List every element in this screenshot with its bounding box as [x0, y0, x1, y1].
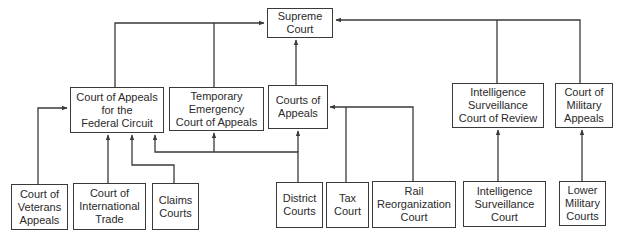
node-court-of-military-appeals: Court of Military Appeals — [555, 83, 613, 128]
node-rail-reorganization-court: Rail Reorganization Court — [372, 181, 456, 228]
node-court-of-appeals-federal-circuit: Court of Appeals for the Federal Circuit — [70, 87, 164, 133]
node-label: Claims Courts — [159, 194, 193, 220]
node-label: Court of Veterans Appeals — [18, 188, 61, 227]
node-label: Rail Reorganization Court — [377, 185, 451, 224]
node-claims-courts: Claims Courts — [152, 183, 199, 230]
node-label: Intelligence Surveillance Court of Revie… — [459, 86, 537, 125]
edge-rail-coa — [330, 107, 413, 181]
node-temporary-emergency-court-of-appeals: Temporary Emergency Court of Appeals — [169, 87, 264, 131]
node-court-of-veterans-appeals: Court of Veterans Appeals — [11, 184, 68, 230]
node-intelligence-surveillance-court: Intelligence Surveillance Court — [463, 181, 546, 227]
node-lower-military-courts: Lower Military Courts — [559, 181, 606, 226]
node-label: District Courts — [283, 192, 317, 218]
node-label: Court of International Trade — [79, 187, 140, 226]
node-intelligence-surveillance-court-of-review: Intelligence Surveillance Court of Revie… — [452, 83, 544, 128]
node-label: Court of Military Appeals — [564, 86, 604, 125]
edge-cma-supreme — [336, 20, 580, 83]
node-label: Tax Court — [334, 192, 361, 218]
node-label: Temporary Emergency Court of Appeals — [176, 90, 257, 129]
node-tax-court: Tax Court — [326, 182, 369, 228]
node-district-courts: District Courts — [276, 182, 323, 228]
node-label: Court of Appeals for the Federal Circuit — [76, 91, 157, 130]
node-label: Supreme Court — [278, 10, 323, 36]
edge-cva-cafc — [38, 108, 67, 184]
node-supreme-court: Supreme Court — [267, 8, 333, 38]
edge-cafc-supreme — [115, 23, 264, 87]
node-courts-of-appeals: Courts of Appeals — [268, 85, 328, 129]
edge-district-cafc — [155, 135, 298, 182]
node-label: Intelligence Surveillance Court — [475, 185, 535, 224]
edge-claims-cafc — [132, 135, 174, 183]
node-court-of-international-trade: Court of International Trade — [73, 183, 146, 230]
court-hierarchy-diagram: Supreme Court Court of Appeals for the F… — [0, 0, 617, 237]
node-label: Courts of Appeals — [276, 94, 321, 120]
node-label: Lower Military Courts — [565, 184, 600, 223]
